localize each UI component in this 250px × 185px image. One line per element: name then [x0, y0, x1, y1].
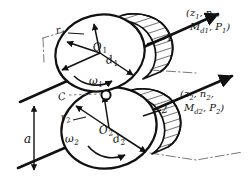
contact-point-marker: [101, 90, 110, 99]
callout-gear-2-parameters: (z2, n2, Md2, P2): [180, 89, 224, 116]
figure-canvas: r1 O1 d1 ω1 C r2 O2 d2 ω2 a 1 2 (z1, n1,…: [0, 0, 250, 185]
label-contact-point: C: [57, 92, 66, 103]
label-diameter-2: d2: [112, 132, 126, 148]
label-diameter-1: d1: [105, 53, 119, 69]
callout-gear-1-parameters: (z1, n1, Md1, P1): [186, 8, 230, 35]
label-center-distance: a: [24, 133, 31, 146]
label-omega-1: ω1: [88, 74, 103, 90]
label-omega-2: ω2: [64, 132, 79, 148]
